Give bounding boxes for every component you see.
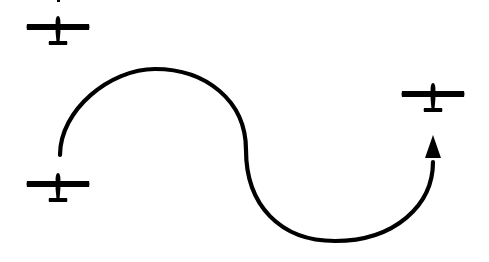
airplane-icon-destination [402,83,465,112]
airplane-icon-start [27,173,90,202]
edge-mark [57,0,60,2]
flight-path [60,69,433,241]
arrow-head-icon [425,135,441,158]
maneuver-diagram: Flight maneuver diagram: aircraft path c… [0,0,489,262]
airplane-icon-top-left [27,16,90,45]
